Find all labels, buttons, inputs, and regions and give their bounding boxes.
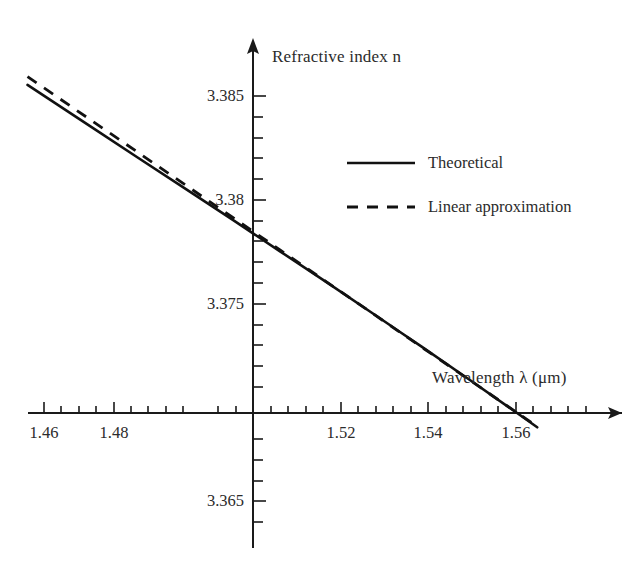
legend-label-linear-approximation: Linear approximation (428, 197, 571, 217)
y-tick-label-3365: 3.365 (178, 491, 244, 511)
y-tick-label-3375: 3.375 (178, 294, 244, 314)
legend-label-theoretical: Theoretical (428, 153, 503, 173)
x-tick-label-148: 1.48 (86, 423, 142, 443)
y-axis-ticks (253, 96, 266, 522)
x-axis-title: Wavelength λ (μm) (432, 368, 567, 388)
x-tick-label-152: 1.52 (313, 423, 369, 443)
axes-group (28, 38, 622, 548)
y-axis-title: Refractive index n (272, 47, 401, 67)
chart-canvas (0, 0, 638, 568)
figure-root: Refractive index n Wavelength λ (μm) 3.3… (0, 0, 638, 568)
x-tick-label-156: 1.56 (488, 423, 544, 443)
y-tick-label-338: 3.38 (178, 190, 244, 210)
x-tick-label-154: 1.54 (400, 423, 456, 443)
x-tick-label-146: 1.46 (16, 423, 72, 443)
y-tick-label-3385: 3.385 (178, 86, 244, 106)
